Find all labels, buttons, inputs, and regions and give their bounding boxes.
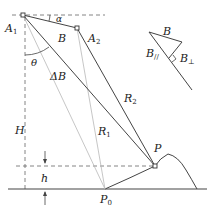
label-h-upper: H <box>14 124 25 137</box>
label-b: B <box>57 32 66 45</box>
label-theta: θ <box>31 57 37 68</box>
inset-label-b-par: B// <box>145 47 159 61</box>
h-arrowhead-bottom <box>43 191 47 196</box>
geometry-diagram: A1 A2 α B θ ΔB R1 R2 H h P P0 B B// B⊥ <box>0 0 215 210</box>
label-p0: P0 <box>99 193 112 207</box>
h-arrowhead-top <box>43 159 47 164</box>
label-h-lower: h <box>41 172 48 185</box>
inset-right-angle <box>172 55 176 62</box>
point-a1 <box>21 13 25 17</box>
label-a2: A2 <box>87 32 100 46</box>
inset-label-b-perp: B⊥ <box>179 52 195 66</box>
label-delta-b: ΔB <box>49 70 66 83</box>
theta-arc <box>25 47 49 55</box>
label-alpha: α <box>56 14 62 24</box>
alpha-arc <box>49 15 50 21</box>
label-r2: R2 <box>123 92 137 106</box>
label-r1: R1 <box>97 125 111 139</box>
label-p: P <box>153 142 162 155</box>
inset-label-b: B <box>162 25 171 38</box>
point-a2 <box>75 26 79 30</box>
point-p <box>153 164 157 168</box>
label-a1: A1 <box>4 22 17 36</box>
